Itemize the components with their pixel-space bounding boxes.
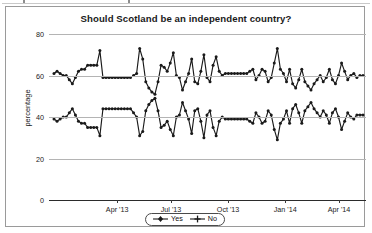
- data-point: [288, 68, 291, 71]
- data-point: [212, 126, 215, 129]
- data-point: [150, 99, 153, 102]
- data-point: [77, 120, 80, 123]
- data-point: [187, 72, 190, 75]
- data-point: [111, 107, 114, 110]
- data-point: [355, 76, 358, 79]
- data-point: [273, 62, 276, 65]
- data-point: [218, 120, 221, 123]
- data-point: [306, 105, 309, 108]
- x-tick-label: Jan '14: [274, 205, 297, 214]
- data-point: [89, 126, 92, 129]
- data-point: [56, 70, 59, 73]
- data-point: [181, 89, 184, 92]
- data-point: [129, 76, 132, 79]
- data-point: [230, 72, 233, 75]
- data-point: [160, 64, 163, 67]
- data-point: [71, 107, 74, 110]
- gridline: [49, 117, 366, 118]
- chart-frame: Should Scotland be an independent countr…: [5, 6, 365, 227]
- data-point: [111, 76, 114, 79]
- data-point: [105, 76, 108, 79]
- data-point: [68, 111, 71, 114]
- data-point: [184, 80, 187, 83]
- data-point: [138, 47, 141, 50]
- data-point: [147, 103, 150, 106]
- data-point: [328, 122, 331, 125]
- data-point: [184, 109, 187, 112]
- data-point: [309, 89, 312, 92]
- data-point: [331, 111, 334, 114]
- data-point: [120, 76, 123, 79]
- data-point: [101, 107, 104, 110]
- data-point: [92, 64, 95, 67]
- data-point: [166, 120, 169, 123]
- data-point: [291, 82, 294, 85]
- data-point: [83, 122, 86, 125]
- x-tick-mark: [285, 200, 286, 203]
- data-point: [132, 111, 135, 114]
- data-point: [279, 68, 282, 71]
- data-point: [270, 113, 273, 116]
- data-point: [53, 72, 56, 75]
- data-point: [254, 111, 257, 114]
- data-point: [276, 138, 279, 141]
- x-tick-label: Apr '13: [106, 205, 129, 214]
- data-point: [98, 49, 101, 52]
- data-point: [273, 128, 276, 131]
- data-point: [86, 126, 89, 129]
- data-point: [303, 80, 306, 83]
- y-axis-label: percentage: [23, 90, 32, 127]
- data-point: [157, 80, 160, 83]
- artifact-rule: [2, 3, 370, 4]
- data-point: [68, 78, 71, 81]
- data-point: [340, 62, 343, 65]
- data-point: [242, 118, 245, 121]
- data-point: [95, 126, 98, 129]
- legend-item-yes: Yes: [153, 215, 183, 223]
- chart-title: Should Scotland be an independent countr…: [6, 13, 366, 24]
- artifact-tick: [128, 0, 130, 3]
- data-point: [178, 76, 181, 79]
- legend-item-no: No: [190, 215, 217, 223]
- data-point: [297, 111, 300, 114]
- data-point: [144, 80, 147, 83]
- data-point: [261, 122, 264, 125]
- series-line-yes: [54, 49, 363, 95]
- data-point: [153, 93, 156, 96]
- data-point: [303, 109, 306, 112]
- data-point: [294, 103, 297, 106]
- data-point: [80, 122, 83, 125]
- data-point: [352, 72, 355, 75]
- data-point: [153, 97, 156, 100]
- data-point: [325, 76, 328, 79]
- series-markers-no: [53, 97, 365, 142]
- data-point: [202, 136, 205, 139]
- data-point: [300, 68, 303, 71]
- data-point: [300, 122, 303, 125]
- data-point: [135, 72, 138, 75]
- data-point: [282, 72, 285, 75]
- data-point: [352, 118, 355, 121]
- data-point: [126, 107, 129, 110]
- data-point: [199, 120, 202, 123]
- legend-label-yes: Yes: [171, 215, 183, 222]
- x-tick-mark: [228, 200, 229, 203]
- data-point: [205, 113, 208, 116]
- data-point: [239, 72, 242, 75]
- data-point: [117, 76, 120, 79]
- y-tick-label: 0: [40, 196, 44, 205]
- data-point: [261, 68, 264, 71]
- data-point: [181, 101, 184, 104]
- cropped-text-artifact: [0, 0, 372, 4]
- data-point: [169, 62, 172, 65]
- gridline: [49, 76, 366, 77]
- data-point: [334, 82, 337, 85]
- data-point: [138, 134, 141, 137]
- data-point: [346, 111, 349, 114]
- data-point: [157, 109, 160, 112]
- data-point: [233, 118, 236, 121]
- data-point: [355, 113, 358, 116]
- data-point: [202, 53, 205, 56]
- x-tick-label: Apr '14: [328, 205, 351, 214]
- data-point: [316, 78, 319, 81]
